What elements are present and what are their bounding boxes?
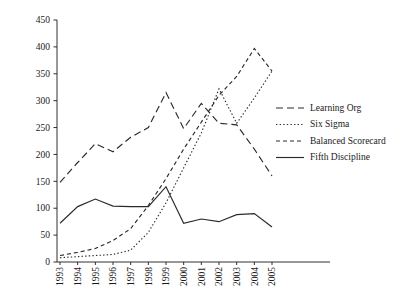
x-tick-label: 1998 (144, 267, 154, 286)
y-tick-label: 300 (36, 96, 51, 106)
x-tick-label: 2002 (214, 267, 224, 286)
x-tick-label: 1997 (126, 267, 136, 286)
y-tick-label: 250 (36, 123, 51, 133)
y-tick-label: 450 (36, 15, 51, 25)
series-line-balanced-scorecard (60, 49, 272, 256)
y-tick-label: 200 (36, 150, 51, 160)
series-line-six-sigma (60, 71, 272, 258)
x-tick-label: 1994 (73, 267, 83, 286)
y-axis-tick-labels: 050100150200250300350400450 (36, 15, 57, 267)
x-tick-label: 1993 (55, 267, 65, 286)
x-tick-label: 2001 (197, 267, 207, 286)
line-chart: 050100150200250300350400450 199319941995… (0, 0, 409, 306)
chart-legend: Learning OrgSix SigmaBalanced ScorecardF… (276, 103, 386, 163)
x-tick-label: 1996 (108, 267, 118, 286)
series-line-learning-org (60, 93, 272, 183)
y-tick-label: 50 (41, 230, 51, 240)
x-axis-tick-labels: 1993199419951996199719981999200020012002… (55, 262, 277, 286)
y-tick-label: 100 (36, 203, 51, 213)
legend-label-fifth-discipline: Fifth Discipline (310, 152, 370, 162)
x-tick-label: 1999 (161, 267, 171, 286)
y-tick-label: 350 (36, 69, 51, 79)
y-tick-label: 150 (36, 177, 51, 187)
x-tick-label: 2003 (232, 267, 242, 286)
legend-label-learning-org: Learning Org (310, 103, 362, 113)
chart-canvas: 050100150200250300350400450 199319941995… (0, 0, 409, 306)
x-tick-label: 2000 (179, 267, 189, 286)
x-tick-label: 2005 (267, 267, 277, 286)
legend-label-six-sigma: Six Sigma (310, 119, 350, 129)
data-series-group (60, 49, 272, 258)
y-tick-label: 0 (45, 257, 50, 267)
legend-label-balanced-scorecard: Balanced Scorecard (310, 136, 386, 146)
series-line-fifth-discipline (60, 187, 272, 227)
x-tick-label: 2004 (250, 267, 260, 286)
y-tick-label: 400 (36, 42, 51, 52)
x-tick-label: 1995 (91, 267, 101, 286)
